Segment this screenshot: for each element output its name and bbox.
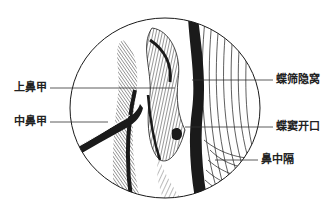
label-sphenoethmoidal-recess: 蝶筛隐窝: [276, 74, 320, 86]
label-middle-turbinate: 中鼻甲: [14, 116, 47, 128]
lens-content: [60, 10, 280, 210]
endoscopic-view-illustration: [0, 0, 333, 210]
label-sphenoid-sinus-ostium: 蝶窦开口: [276, 121, 320, 133]
anatomy-figure: 上鼻甲 中鼻甲 蝶筛隐窝 蝶窦开口 鼻中隔: [0, 0, 333, 210]
label-nasal-septum: 鼻中隔: [261, 154, 294, 166]
label-superior-turbinate: 上鼻甲: [14, 82, 47, 94]
sphenoid-ostium-mark: [172, 128, 182, 140]
